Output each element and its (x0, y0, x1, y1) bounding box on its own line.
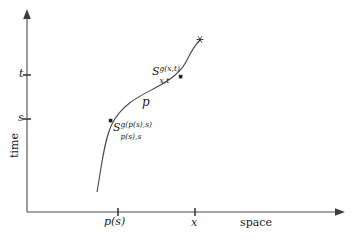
x-axis-title: space (240, 217, 272, 228)
y-tick-label-t: t (19, 68, 23, 79)
annotation-upper: Sg(x,t)x,t (152, 66, 160, 77)
y-tick-label-s: s (18, 112, 24, 123)
y-axis-arrowhead (23, 9, 31, 19)
asterisk-marker (197, 36, 204, 42)
annotation-upper-superscript: g(x,t) (160, 65, 180, 73)
annotation-lower: Sg(p(s),s)p(s),s (113, 122, 121, 133)
x-tick-label-ps: p(s) (104, 216, 125, 227)
annotation-lower-superscript: g(p(s),s) (121, 121, 152, 129)
curve-label-p: p (142, 96, 150, 108)
annotation-lower-base: S (113, 121, 121, 134)
diagram-canvas (0, 0, 352, 246)
space-time-diagram: t s time p(s) x space p Sg(x,t)x,t Sg(p(… (0, 0, 352, 246)
annotation-upper-base: S (152, 65, 160, 78)
y-axis-title: time (9, 123, 20, 169)
annotation-upper-subscript: x,t (160, 77, 170, 85)
curve-point-lower (109, 119, 113, 123)
annotation-lower-subscript: p(s),s (121, 133, 142, 141)
trajectory-curve (97, 40, 200, 192)
x-tick-label-x: x (191, 217, 197, 228)
curve-point-upper (179, 75, 183, 79)
x-axis-arrowhead (335, 208, 345, 216)
